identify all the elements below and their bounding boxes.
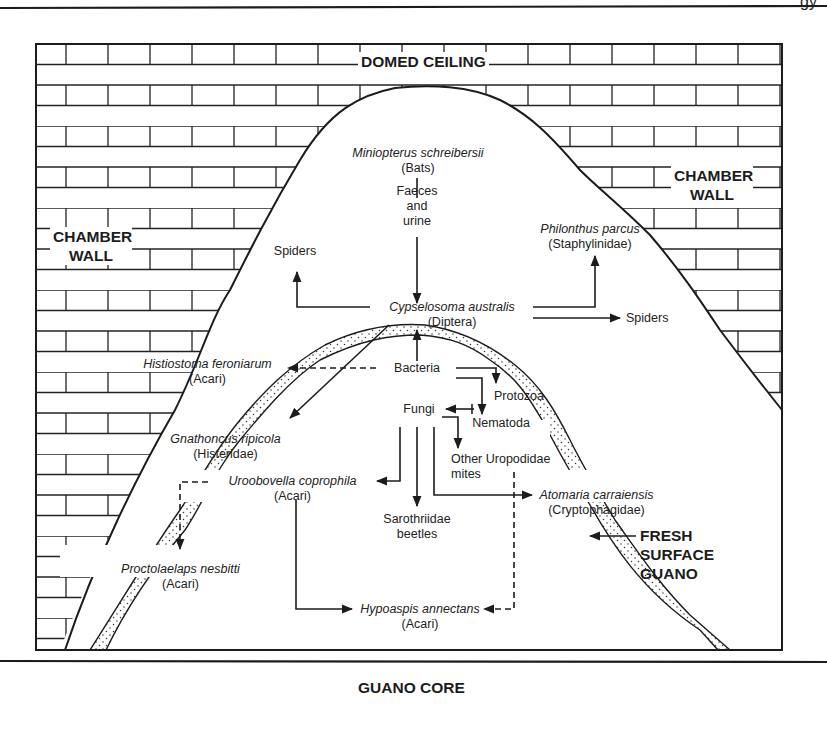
page-corner-text: gy	[800, 0, 817, 9]
node-spiders-right: Spiders	[626, 311, 686, 326]
node-fungi: Fungi	[395, 402, 443, 417]
node-philonthus: Philonthus parcus (Staphylinidae)	[535, 222, 645, 252]
node-other-uropodidae-mites: Other Uropodidae mites	[451, 452, 571, 482]
node-spiders-left: Spiders	[265, 244, 325, 259]
node-nematoda: Nematoda	[467, 416, 535, 431]
node-cypselosoma: Cypselosoma australis (Diptera)	[372, 300, 532, 330]
guano-core-label: GUANO CORE	[355, 678, 468, 697]
chamber-wall-right-label: CHAMBER WALL	[671, 166, 753, 204]
page-bottom-rule	[0, 661, 827, 662]
node-bacteria: Bacteria	[380, 361, 454, 376]
chamber-wall-left-label: CHAMBER WALL	[50, 227, 132, 265]
node-proctolaelaps: Proctolaelaps nesbitti (Acari)	[108, 562, 253, 592]
node-sarothriidae-beetles: Sarothriidae beetles	[377, 512, 457, 542]
node-bats: Miniopterus schreibersii (Bats)	[343, 146, 493, 176]
node-atomaria: Atomaria carraiensis (Cryptophagidae)	[534, 488, 659, 518]
node-faeces-and-urine: Faeces and urine	[387, 184, 447, 229]
guano-food-web-diagram: gy DOMED CEILING CHAMBER WALL CHAMBER WA…	[0, 0, 827, 735]
node-protozoa: Protozoa	[487, 389, 551, 404]
page-top-rule	[0, 6, 827, 8]
node-uroobovella: Uroobovella coprophila (Acari)	[210, 474, 375, 504]
node-gnathoncus: Gnathoncus ripicola (Histeridae)	[158, 432, 293, 462]
node-histiostoma: Histiostoma feroniarum (Acari)	[130, 357, 285, 387]
fresh-surface-guano-label: FRESH SURFACE GUANO	[637, 526, 717, 583]
node-hypoaspis: Hypoaspis annectans (Acari)	[356, 602, 484, 632]
domed-ceiling-label: DOMED CEILING	[358, 52, 489, 71]
